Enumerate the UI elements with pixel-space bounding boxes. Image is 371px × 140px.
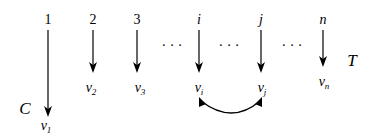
ellipsis-1: · · · — [162, 38, 183, 53]
column-n: n vn — [319, 12, 330, 91]
value-label-j: vj — [258, 80, 267, 97]
value-label-3: v3 — [135, 80, 146, 97]
column-j: j vj — [257, 12, 267, 97]
side-label-T: T — [347, 51, 358, 70]
index-label-1: 1 — [45, 12, 52, 27]
arrowhead-left-icon — [199, 97, 206, 107]
index-label-j: j — [257, 12, 263, 27]
column-1: 1 v1 — [41, 12, 52, 135]
value-label-i: vi — [195, 80, 204, 97]
column-2: 2 v2 — [86, 12, 97, 97]
index-label-3: 3 — [134, 12, 141, 27]
ellipsis-2: · · · — [219, 38, 240, 53]
index-label-2: 2 — [90, 12, 97, 27]
arrowhead-right-icon — [255, 97, 262, 107]
diagram-canvas: 1 v1 2 v2 3 v3 · · · i vi · · · j vj · ·… — [0, 0, 371, 140]
side-label-C: C — [19, 99, 31, 118]
value-label-1: v1 — [41, 118, 52, 135]
index-label-n: n — [320, 12, 327, 27]
index-label-i: i — [197, 12, 201, 27]
column-i: i vi — [195, 12, 204, 97]
ellipsis-3: · · · — [282, 38, 303, 53]
value-label-2: v2 — [86, 80, 97, 97]
column-3: 3 v3 — [133, 12, 146, 97]
swap-arrow — [199, 97, 262, 113]
value-label-n: vn — [319, 74, 330, 91]
